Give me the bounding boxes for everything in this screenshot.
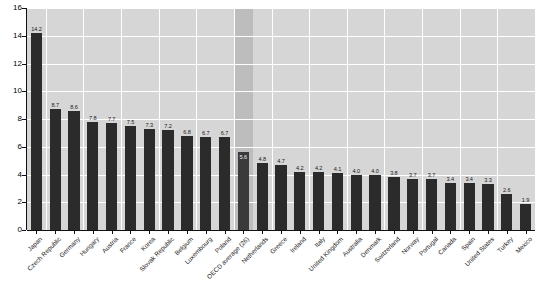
bar [369, 175, 380, 231]
bar [501, 194, 512, 230]
x-axis-tick [488, 231, 489, 234]
vertical-gridline [460, 8, 461, 230]
x-axis-tick [394, 231, 395, 234]
x-axis-tick [130, 231, 131, 234]
x-axis-tick [243, 231, 244, 234]
bar-value-label: 7.8 [83, 115, 103, 121]
vertical-gridline [272, 8, 273, 230]
bar [87, 122, 98, 230]
bar-oecd-average [238, 152, 249, 230]
vertical-gridline [422, 8, 423, 230]
plot-area: 14.28.78.67.87.77.57.37.26.86.76.75.64.8… [27, 8, 535, 230]
x-axis-category-label: Ireland [289, 236, 307, 254]
y-axis-tick [22, 91, 26, 92]
y-axis-tick [22, 36, 26, 37]
x-axis-tick [112, 231, 113, 234]
x-axis-tick [187, 231, 188, 234]
x-axis-tick [375, 231, 376, 234]
bar-value-label: 4.1 [328, 166, 348, 172]
y-axis-tick [22, 8, 26, 9]
x-axis-category-label: France [119, 236, 138, 255]
y-axis-tick-label: 0 [0, 226, 22, 234]
x-axis-tick [74, 231, 75, 234]
vertical-gridline [497, 8, 498, 230]
x-axis-tick [149, 231, 150, 234]
x-axis-tick [337, 231, 338, 234]
vertical-gridline [309, 8, 310, 230]
bar-value-label: 5.6 [234, 154, 254, 160]
x-axis-tick [281, 231, 282, 234]
bar-value-label: 3.8 [384, 170, 404, 176]
x-axis-tick [469, 231, 470, 234]
bar [388, 177, 399, 230]
vertical-gridline [234, 8, 235, 230]
bar [162, 130, 173, 230]
y-axis-tick [22, 64, 26, 65]
y-axis-tick [22, 119, 26, 120]
bar [275, 165, 286, 230]
bar [106, 123, 117, 230]
y-axis-tick-label: 14 [0, 32, 22, 40]
x-axis-category-label: Canada [437, 236, 457, 256]
y-axis-tick-label: 12 [0, 60, 22, 68]
x-axis-tick [319, 231, 320, 234]
bar-value-label: 6.7 [196, 130, 216, 136]
x-axis-tick [356, 231, 357, 234]
bar [219, 137, 230, 230]
bar [31, 33, 42, 230]
bar-chart: 14.28.78.67.87.77.57.37.26.86.76.75.64.8… [0, 0, 542, 305]
bar-value-label: 3.7 [422, 172, 442, 178]
y-axis-tick [22, 202, 26, 203]
bar [294, 172, 305, 230]
bar [520, 204, 531, 230]
bar-value-label: 3.4 [441, 176, 461, 182]
bar [144, 129, 155, 230]
bar-value-label: 6.7 [215, 130, 235, 136]
x-axis-tick [168, 231, 169, 234]
y-axis-line [26, 8, 27, 230]
horizontal-gridline [27, 8, 535, 9]
y-axis-tick [22, 147, 26, 148]
x-axis-tick [93, 231, 94, 234]
bar [181, 136, 192, 230]
y-axis-tick [22, 230, 26, 231]
bar-value-label: 7.7 [102, 116, 122, 122]
vertical-gridline [196, 8, 197, 230]
horizontal-gridline [27, 91, 535, 92]
bar-value-label: 4.7 [271, 158, 291, 164]
bar [351, 175, 362, 231]
y-axis-tick-label: 4 [0, 171, 22, 179]
bar-value-label: 3.3 [478, 177, 498, 183]
bar-value-label: 3.4 [459, 176, 479, 182]
bar [482, 184, 493, 230]
x-axis-tick [507, 231, 508, 234]
bar [445, 183, 456, 230]
bar [426, 179, 437, 230]
bar [50, 109, 61, 230]
y-axis-tick [22, 175, 26, 176]
horizontal-gridline [27, 147, 535, 148]
bar-value-label: 7.3 [140, 122, 160, 128]
vertical-gridline [46, 8, 47, 230]
x-axis-tick [432, 231, 433, 234]
x-axis-category-label: Hungary [79, 236, 101, 258]
bar-value-label: 4.2 [290, 165, 310, 171]
x-axis-tick [413, 231, 414, 234]
x-axis-category-label: Mexico [514, 236, 533, 255]
bar-value-label: 4.8 [252, 156, 272, 162]
bar-value-label: 2.6 [497, 187, 517, 193]
bar-value-label: 4.0 [365, 168, 385, 174]
bar-value-label: 8.6 [64, 104, 84, 110]
bar-value-label: 4.2 [309, 165, 329, 171]
y-axis-tick-label: 8 [0, 115, 22, 123]
x-axis-category-label: Greece [269, 236, 288, 255]
x-axis-tick [526, 231, 527, 234]
bar [257, 163, 268, 230]
x-axis-tick [225, 231, 226, 234]
bar-value-label: 14.2 [27, 26, 46, 32]
bar-value-label: 4.0 [346, 168, 366, 174]
x-axis-tick [262, 231, 263, 234]
vertical-gridline [159, 8, 160, 230]
y-axis-tick-label: 6 [0, 143, 22, 151]
y-axis-tick-label: 10 [0, 87, 22, 95]
